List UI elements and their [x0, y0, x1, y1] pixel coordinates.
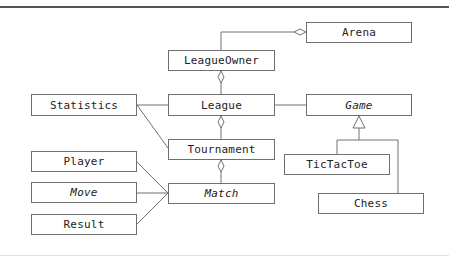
class-league-owner: LeagueOwner: [168, 50, 275, 71]
edge-tictactoe-game: [337, 128, 359, 154]
edge-result-match: [137, 193, 168, 224]
class-league: League: [168, 94, 275, 116]
class-result: Result: [31, 214, 137, 235]
edge-leagueowner-arena: [221, 32, 294, 50]
class-player: Player: [31, 151, 137, 172]
class-label: Player: [64, 155, 105, 168]
class-label: LeagueOwner: [184, 54, 259, 67]
class-move: Move: [31, 182, 137, 203]
class-arena: Arena: [306, 22, 412, 43]
class-tictactoe: TicTacToe: [284, 154, 390, 175]
aggregation-diamond-icon: [294, 29, 306, 35]
uml-class-diagram: Arena LeagueOwner Statistics League Game…: [0, 0, 449, 258]
class-statistics: Statistics: [31, 94, 137, 116]
class-label: Statistics: [50, 99, 118, 112]
aggregation-diamond-icon: [218, 116, 224, 128]
class-label: Game: [345, 99, 372, 112]
class-label: TicTacToe: [306, 158, 367, 171]
class-label: Move: [70, 186, 97, 199]
class-game: Game: [306, 94, 412, 116]
class-match: Match: [168, 183, 275, 204]
edge-player-match: [137, 162, 168, 193]
class-label: Result: [64, 218, 105, 231]
class-label: Match: [204, 187, 238, 200]
class-label: Chess: [354, 197, 388, 210]
edge-statistics-tournament: [137, 105, 168, 148]
class-tournament: Tournament: [168, 139, 275, 160]
class-label: League: [201, 99, 242, 112]
class-label: Arena: [342, 26, 376, 39]
generalization-triangle-icon: [353, 116, 365, 128]
aggregation-diamond-icon: [218, 71, 224, 83]
aggregation-diamond-icon: [218, 160, 224, 172]
class-chess: Chess: [318, 193, 424, 214]
class-label: Tournament: [187, 143, 255, 156]
